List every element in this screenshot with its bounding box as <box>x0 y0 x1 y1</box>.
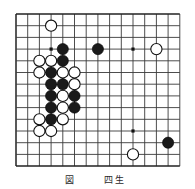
white-stone[interactable] <box>46 55 57 66</box>
white-stone[interactable] <box>57 114 68 125</box>
black-stone[interactable] <box>57 44 68 55</box>
white-stone[interactable] <box>46 125 57 136</box>
white-stone[interactable] <box>57 90 68 101</box>
black-stone[interactable] <box>46 114 57 125</box>
go-board[interactable] <box>12 10 184 170</box>
figure-caption: 図 四 生 <box>0 171 195 189</box>
white-stone[interactable] <box>34 114 45 125</box>
caption-right-label: 四 生 <box>104 175 125 185</box>
white-stone[interactable] <box>34 55 45 66</box>
black-stone[interactable] <box>92 44 103 55</box>
black-stone[interactable] <box>46 102 57 113</box>
white-stone[interactable] <box>151 44 162 55</box>
white-stone[interactable] <box>57 102 68 113</box>
black-stone[interactable] <box>69 90 80 101</box>
white-stone[interactable] <box>34 125 45 136</box>
star-point <box>131 48 134 51</box>
caption-left-label: 図 <box>65 175 74 185</box>
star-point <box>50 48 53 51</box>
black-stone[interactable] <box>163 137 174 148</box>
white-stone[interactable] <box>34 67 45 78</box>
white-stone[interactable] <box>57 67 68 78</box>
black-stone[interactable] <box>69 102 80 113</box>
white-stone[interactable] <box>46 20 57 31</box>
black-stone[interactable] <box>46 67 57 78</box>
white-stone[interactable] <box>69 67 80 78</box>
go-board-canvas[interactable] <box>12 10 184 170</box>
black-stone[interactable] <box>57 55 68 66</box>
go-diagram-figure: 図 四 生 <box>0 0 195 189</box>
white-stone[interactable] <box>69 79 80 90</box>
black-stone[interactable] <box>46 90 57 101</box>
black-stone[interactable] <box>46 79 57 90</box>
black-stone[interactable] <box>57 79 68 90</box>
star-point <box>131 129 134 132</box>
white-stone[interactable] <box>127 149 138 160</box>
